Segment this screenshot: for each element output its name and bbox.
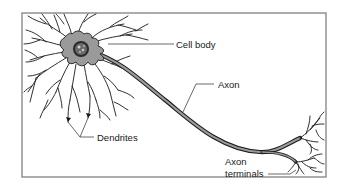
neuron-diagram: Cell body Axon Dendrites Axon terminals <box>0 0 343 189</box>
label-axon: Axon <box>218 79 240 90</box>
label-axon-terminals-line2: terminals <box>225 168 264 179</box>
label-cell-body: Cell body <box>176 39 216 50</box>
label-axon-terminals-line1: Axon <box>225 156 247 167</box>
label-dendrites: Dendrites <box>97 132 138 143</box>
nucleus <box>73 41 89 57</box>
